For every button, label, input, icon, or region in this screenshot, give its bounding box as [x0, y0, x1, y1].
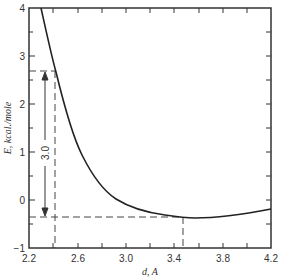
x-axis-label: d, A: [142, 266, 159, 277]
svg-text:3.0: 3.0: [119, 253, 133, 264]
svg-text:0: 0: [19, 195, 25, 206]
svg-text:1: 1: [19, 147, 25, 158]
y-tick-labels: 4 3 2 1 0 −1: [14, 3, 26, 254]
svg-text:2: 2: [19, 99, 25, 110]
arrow-label: 3.0: [40, 146, 51, 160]
x-tick-labels: 2.2 2.6 3.0 3.4 3.8 4.2: [22, 253, 278, 264]
y-ticks: [29, 32, 271, 224]
y-axis-label: E, kcal./mole: [2, 101, 13, 155]
svg-text:3.8: 3.8: [216, 253, 230, 264]
svg-text:3: 3: [19, 51, 25, 62]
svg-text:2.6: 2.6: [71, 253, 85, 264]
svg-text:3.4: 3.4: [167, 253, 181, 264]
svg-text:2.2: 2.2: [22, 253, 36, 264]
dashed-guides: [29, 71, 183, 248]
svg-text:4: 4: [19, 3, 25, 14]
energy-curve: [41, 8, 271, 218]
chart-canvas: 3.0 4 3 2 1 0 −1 2.2 2.6 3.0 3.4 3.8 4.2…: [0, 0, 283, 279]
svg-text:4.2: 4.2: [264, 253, 278, 264]
